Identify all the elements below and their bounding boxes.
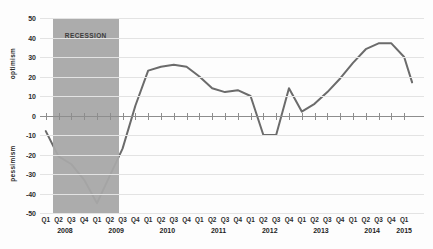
y-tick-label: 10 (2, 93, 36, 100)
x-axis-tick (238, 113, 239, 120)
x-axis-tick (187, 113, 188, 120)
gridline (40, 77, 424, 78)
x-tick-label-quarter: Q4 (233, 216, 242, 223)
y-tick-label: 50 (2, 15, 36, 22)
y-axis-title-optimism: optimism (9, 43, 16, 85)
y-tick-label: -30 (2, 171, 36, 178)
y-tick-label: -40 (2, 190, 36, 197)
x-axis-tick (71, 113, 72, 120)
x-tick-label-quarter: Q1 (195, 216, 204, 223)
x-axis-tick (135, 113, 136, 120)
x-axis-tick (84, 113, 85, 120)
x-axis-tick (212, 113, 213, 120)
x-tick-label-quarter: Q4 (387, 216, 396, 223)
x-tick-label-quarter: Q1 (297, 216, 306, 223)
x-axis-tick (123, 113, 124, 120)
x-tick-label-quarter: Q3 (67, 216, 76, 223)
x-axis-tick (148, 113, 149, 120)
plot-area: RECESSION (40, 18, 424, 213)
gridline (40, 135, 424, 136)
x-axis-tick (263, 113, 264, 120)
x-tick-label-quarter: Q3 (323, 216, 332, 223)
x-tick-label-year: 2014 (364, 227, 380, 234)
x-axis-tick (276, 113, 277, 120)
x-axis-tick (379, 113, 380, 120)
x-tick-label-quarter: Q2 (54, 216, 63, 223)
x-tick-label-quarter: Q2 (105, 216, 114, 223)
y-axis: 50 40 30 20 10 0 -10 -20 -30 -40 -50 (0, 0, 36, 249)
x-tick-label-quarter: Q4 (336, 216, 345, 223)
x-tick-label-year: 2012 (262, 227, 278, 234)
x-tick-label-year: 2011 (211, 227, 226, 234)
x-axis-tick (97, 113, 98, 120)
gridline (40, 96, 424, 97)
x-tick-label-quarter: Q1 (93, 216, 102, 223)
x-tick-label-quarter: Q4 (182, 216, 191, 223)
x-tick-label-quarter: Q1 (349, 216, 358, 223)
x-axis-ticks (40, 116, 424, 117)
y-tick-label: -20 (2, 151, 36, 158)
x-axis-tick (225, 113, 226, 120)
y-tick-label: -50 (2, 210, 36, 217)
x-axis-tick (404, 113, 405, 120)
x-axis-tick (353, 113, 354, 120)
x-tick-label-year: 2008 (57, 227, 73, 234)
y-tick-label: 20 (2, 73, 36, 80)
x-tick-label-quarter: Q4 (131, 216, 140, 223)
x-axis-tick (251, 113, 252, 120)
gridline (40, 18, 424, 19)
x-tick-label-year: 2013 (313, 227, 329, 234)
x-tick-label-quarter: Q3 (118, 216, 127, 223)
x-tick-label-quarter: Q1 (144, 216, 153, 223)
y-tick-label: 30 (2, 54, 36, 61)
y-tick-label: -10 (2, 132, 36, 139)
x-axis-tick (161, 113, 162, 120)
x-axis-tick (110, 113, 111, 120)
x-axis-tick (340, 113, 341, 120)
x-tick-label-year: 2009 (108, 227, 124, 234)
x-tick-label-quarter: Q3 (169, 216, 178, 223)
gridline (40, 57, 424, 58)
x-axis-tick (366, 113, 367, 120)
x-tick-label-quarter: Q1 (400, 216, 409, 223)
x-tick-label-quarter: Q2 (259, 216, 268, 223)
y-tick-label: 40 (2, 34, 36, 41)
x-axis-tick (327, 113, 328, 120)
x-tick-label-quarter: Q1 (41, 216, 50, 223)
x-tick-label-year: 2015 (396, 227, 412, 234)
x-tick-label-quarter: Q3 (374, 216, 383, 223)
chart-figure: 50 40 30 20 10 0 -10 -20 -30 -40 -50 opt… (0, 0, 433, 249)
x-axis-tick (391, 113, 392, 120)
x-axis-tick (315, 113, 316, 120)
gridline (40, 38, 424, 39)
x-tick-label-quarter: Q2 (361, 216, 370, 223)
gridline (40, 174, 424, 175)
x-axis-tick (302, 113, 303, 120)
x-tick-label-quarter: Q4 (285, 216, 294, 223)
x-axis-tick (199, 113, 200, 120)
x-axis-tick (46, 113, 47, 120)
y-axis-title-pessimism: pessimism (9, 141, 16, 187)
x-tick-label-year: 2010 (160, 227, 176, 234)
x-axis-tick (174, 113, 175, 120)
x-tick-label-quarter: Q1 (246, 216, 255, 223)
x-tick-label-quarter: Q4 (80, 216, 89, 223)
gridline (40, 194, 424, 195)
x-tick-label-quarter: Q2 (310, 216, 319, 223)
x-axis-tick (59, 113, 60, 120)
gridline (40, 155, 424, 156)
x-axis: Q1Q2Q3Q4Q1Q2Q3Q4Q1Q2Q3Q4Q1Q2Q3Q4Q1Q2Q3Q4… (40, 214, 424, 248)
x-axis-tick (289, 113, 290, 120)
x-tick-label-quarter: Q2 (208, 216, 217, 223)
x-tick-label-quarter: Q3 (272, 216, 281, 223)
x-tick-label-quarter: Q3 (221, 216, 230, 223)
x-tick-label-quarter: Q2 (157, 216, 166, 223)
y-tick-label: 0 (2, 112, 36, 119)
